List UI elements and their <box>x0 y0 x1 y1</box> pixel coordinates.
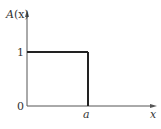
tick-label-a: a <box>83 108 90 121</box>
tick-label-zero: 0 <box>17 100 24 113</box>
x-axis-label: x <box>150 108 157 121</box>
y-axis-label: A(x) <box>5 8 29 21</box>
step-function-diagram: A(x) 1 0 a x <box>0 0 161 129</box>
y-label-func: A <box>5 8 14 21</box>
tick-label-one: 1 <box>17 46 24 59</box>
y-label-arg: (x) <box>14 8 29 21</box>
